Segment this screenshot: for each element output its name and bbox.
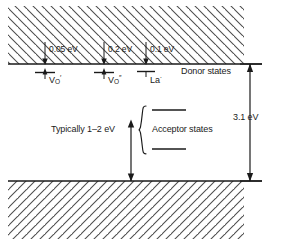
band-gap-arrow <box>240 64 262 182</box>
acceptor-depth-arrow <box>128 120 134 182</box>
donor-species-main-2: La <box>150 75 160 85</box>
donor-species-sup-2: · <box>160 74 162 81</box>
conduction-band-hatched-region <box>8 6 244 64</box>
donor-species-label-0: VO′ <box>49 74 61 86</box>
valence-band-hatched-region <box>8 181 244 239</box>
donor-states-label: Donor states <box>181 67 231 76</box>
donor-species-label-2: La· <box>150 74 162 86</box>
acceptor-states-brace <box>139 106 146 154</box>
donor-species-label-1: VO″ <box>108 74 121 86</box>
band-diagram-svg <box>0 0 284 245</box>
band-diagram-figure: 0.05 eV 0.2 eV 0.1 eV VO′ VO″ La· Donor … <box>0 0 284 245</box>
band-gap-label: 3.1 eV <box>233 113 258 122</box>
donor-species-sup-1: ″ <box>119 74 121 81</box>
donor-species-sup-0: ′ <box>60 74 61 81</box>
donor-energy-label-0: 0.05 eV <box>49 45 78 54</box>
acceptor-depth-label: Typically 1–2 eV <box>51 125 115 134</box>
donor-energy-label-2: 0.1 eV <box>150 45 174 54</box>
acceptor-states-label: Acceptor states <box>152 125 213 134</box>
donor-energy-label-1: 0.2 eV <box>108 45 132 54</box>
